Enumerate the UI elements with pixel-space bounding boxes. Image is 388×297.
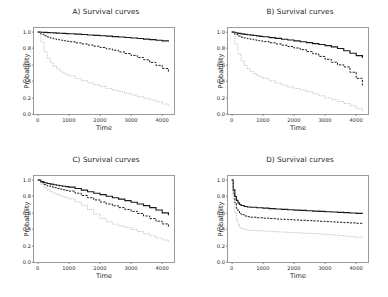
panel-d-curves <box>228 176 368 262</box>
x-tick-label: 4000 <box>156 117 169 123</box>
panel-a-plot-area: Probability Time 0.00.20.40.60.81.001000… <box>33 27 175 115</box>
panel-b-xlabel: Time <box>228 124 368 132</box>
y-tick-label: 0.2 <box>23 95 31 101</box>
x-tick-label: 2000 <box>287 117 300 123</box>
panel-c-xlabel: Time <box>34 272 174 280</box>
x-tick-label: 2000 <box>287 265 300 271</box>
panel-a-xlabel: Time <box>34 124 174 132</box>
y-tick-label: 0.8 <box>23 45 31 51</box>
y-tick-mark <box>226 262 228 263</box>
curve-dotted <box>38 32 169 106</box>
curve-dotted <box>232 180 363 238</box>
x-tick-mark <box>131 262 132 264</box>
x-tick-mark <box>131 114 132 116</box>
curve-solid <box>38 180 169 215</box>
y-tick-label: 0.4 <box>217 78 225 84</box>
curve-dotted <box>232 32 363 111</box>
x-tick-label: 4000 <box>350 117 363 123</box>
panel-a-svg <box>34 28 174 114</box>
x-tick-mark <box>263 114 264 116</box>
panel-d-xlabel: Time <box>228 272 368 280</box>
y-tick-mark <box>32 196 34 197</box>
y-tick-label: 0.8 <box>217 45 225 51</box>
y-tick-label: 0.8 <box>217 193 225 199</box>
panel-d: D) Survival curves Probability Time 0.00… <box>194 148 388 296</box>
curve-solid <box>232 180 363 214</box>
figure-grid: A) Survival curves Probability Time 0.00… <box>0 0 388 297</box>
y-tick-mark <box>226 81 228 82</box>
x-tick-label: 3000 <box>318 117 331 123</box>
panel-d-title: D) Survival curves <box>194 155 388 164</box>
x-tick-mark <box>356 262 357 264</box>
x-tick-label: 4000 <box>156 265 169 271</box>
x-tick-label: 0 <box>230 265 233 271</box>
x-tick-mark <box>231 114 232 116</box>
y-tick-mark <box>226 196 228 197</box>
panel-b-title: B) Survival curves <box>194 7 388 16</box>
x-tick-mark <box>325 114 326 116</box>
y-tick-label: 0.6 <box>23 62 31 68</box>
y-tick-label: 0.0 <box>217 259 225 265</box>
y-tick-mark <box>226 65 228 66</box>
y-tick-label: 1.0 <box>217 29 225 35</box>
x-tick-mark <box>162 262 163 264</box>
y-tick-mark <box>32 48 34 49</box>
y-tick-mark <box>32 245 34 246</box>
x-tick-label: 1000 <box>256 265 269 271</box>
x-tick-label: 4000 <box>350 265 363 271</box>
y-tick-label: 0.0 <box>23 259 31 265</box>
y-tick-mark <box>226 213 228 214</box>
x-tick-mark <box>294 262 295 264</box>
x-tick-mark <box>162 114 163 116</box>
curve-solid <box>232 32 363 58</box>
panel-d-svg <box>228 176 368 262</box>
y-tick-mark <box>226 48 228 49</box>
x-tick-mark <box>231 262 232 264</box>
y-tick-mark <box>32 97 34 98</box>
y-tick-mark <box>32 114 34 115</box>
y-tick-label: 0.6 <box>23 210 31 216</box>
y-tick-label: 0.6 <box>217 210 225 216</box>
x-tick-mark <box>356 114 357 116</box>
panel-d-plot-area: Probability Time 0.00.20.40.60.81.001000… <box>227 175 369 263</box>
x-tick-label: 0 <box>230 117 233 123</box>
x-tick-mark <box>37 114 38 116</box>
x-tick-mark <box>37 262 38 264</box>
y-tick-mark <box>32 180 34 181</box>
y-tick-mark <box>32 229 34 230</box>
y-tick-label: 0.2 <box>217 95 225 101</box>
panel-b-svg <box>228 28 368 114</box>
panel-c-plot-area: Probability Time 0.00.20.40.60.81.001000… <box>33 175 175 263</box>
y-tick-label: 0.4 <box>217 226 225 232</box>
y-tick-label: 0.4 <box>23 78 31 84</box>
y-tick-mark <box>32 213 34 214</box>
x-tick-label: 3000 <box>124 265 137 271</box>
y-tick-mark <box>226 180 228 181</box>
x-tick-mark <box>69 262 70 264</box>
x-tick-mark <box>100 262 101 264</box>
x-tick-label: 0 <box>36 117 39 123</box>
y-tick-label: 0.0 <box>23 111 31 117</box>
y-tick-label: 0.2 <box>23 243 31 249</box>
y-tick-label: 0.0 <box>217 111 225 117</box>
panel-c-title: C) Survival curves <box>0 155 194 164</box>
y-tick-label: 1.0 <box>23 177 31 183</box>
x-tick-mark <box>100 114 101 116</box>
panel-b-plot-area: Probability Time 0.00.20.40.60.81.001000… <box>227 27 369 115</box>
panel-c-svg <box>34 176 174 262</box>
panel-b: B) Survival curves Probability Time 0.00… <box>194 0 388 148</box>
panel-a-curves <box>34 28 174 114</box>
panel-c: C) Survival curves Probability Time 0.00… <box>0 148 194 296</box>
y-tick-label: 1.0 <box>23 29 31 35</box>
panel-a: A) Survival curves Probability Time 0.00… <box>0 0 194 148</box>
y-tick-mark <box>226 245 228 246</box>
y-tick-label: 0.6 <box>217 62 225 68</box>
y-tick-mark <box>32 81 34 82</box>
y-tick-mark <box>32 32 34 33</box>
y-tick-mark <box>32 65 34 66</box>
y-tick-mark <box>226 229 228 230</box>
x-tick-mark <box>263 262 264 264</box>
y-tick-label: 1.0 <box>217 177 225 183</box>
x-tick-mark <box>294 114 295 116</box>
x-tick-label: 3000 <box>318 265 331 271</box>
